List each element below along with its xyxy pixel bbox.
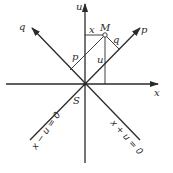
segment-u-label: u [97, 54, 103, 65]
origin-point [83, 82, 87, 86]
segment-p-label: p [72, 51, 79, 62]
x-axis-label: x [154, 87, 160, 98]
left-line-equation: x − u = 0 [29, 110, 63, 152]
point-m [103, 33, 107, 37]
segment-x-label: x [89, 24, 95, 35]
u-axis-label: u [76, 1, 82, 12]
segment-q-label: q [113, 34, 119, 45]
origin-label: S [73, 95, 80, 106]
coordinate-diagram: x u p q M S x q u p x − u = 0 x + u = 0 [0, 0, 173, 173]
right-line-equation: x + u = 0 [108, 117, 145, 157]
point-m-label: M [99, 22, 111, 33]
q-axis-label: q [19, 21, 25, 32]
p-axis-label: p [141, 24, 148, 35]
